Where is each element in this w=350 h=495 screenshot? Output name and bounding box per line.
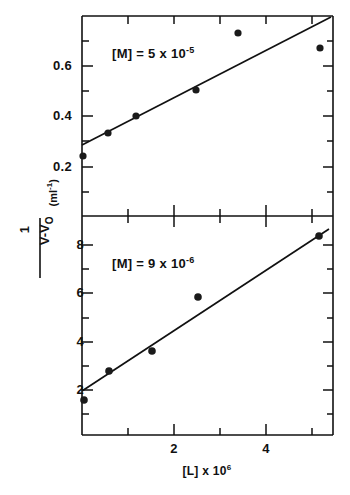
bottom-panel-annotation-exponent: -6 xyxy=(186,255,195,265)
data-point xyxy=(105,367,113,375)
top-panel-ytick-label-0: 0.6 xyxy=(32,58,72,73)
y-axis-caption-unit-exponent: -1 xyxy=(45,183,54,190)
data-point xyxy=(79,152,86,159)
y-axis-caption-unit-open: (ml xyxy=(47,190,59,207)
bottom-panel-annotation-text: [M] = 9 x 10 xyxy=(112,256,186,271)
data-point xyxy=(80,396,88,404)
bottom-panel-x-ticks-top xyxy=(128,216,312,227)
bottom-panel-frame xyxy=(82,216,333,435)
top-panel-annotation-text: [M] = 5 x 10 xyxy=(112,46,186,61)
bottom-panel-xtick-label-1: 4 xyxy=(254,441,278,456)
top-panel-y-ticks xyxy=(82,41,93,192)
x-axis-caption: [L] x 106 xyxy=(147,463,267,478)
top-panel-x-ticks-top xyxy=(128,16,312,24)
x-axis-caption-exponent: 6 xyxy=(227,463,232,472)
data-point xyxy=(234,29,241,36)
data-point xyxy=(148,347,156,355)
top-panel-ytick-label-1: 0.4 xyxy=(32,108,72,123)
figure-root: 0.6 0.4 0.2 [M] = 5 x 10-5 8 6 4 2 [M] =… xyxy=(0,0,350,495)
top-panel-fit-line xyxy=(82,17,331,145)
bottom-panel-x-ticks-bottom xyxy=(128,424,312,435)
data-point xyxy=(192,86,199,93)
data-point xyxy=(316,44,323,51)
x-axis-caption-text: [L] x 10 xyxy=(182,464,226,478)
data-point xyxy=(194,293,202,301)
y-axis-caption-numerator: 1 xyxy=(17,210,32,250)
top-panel-y-ticks-right xyxy=(323,41,333,192)
bottom-panel-fit-line xyxy=(82,229,329,391)
y-axis-caption-unit: (ml-1) xyxy=(45,165,59,221)
top-panel-annotation: [M] = 5 x 10-5 xyxy=(112,45,195,61)
y-axis-caption-unit-close: ) xyxy=(47,179,59,183)
data-point xyxy=(315,232,323,240)
bottom-panel-ytick-label-2: 4 xyxy=(44,334,84,349)
bottom-panel-annotation: [M] = 9 x 10-6 xyxy=(112,255,195,271)
y-axis-caption: 1 V-VO (ml-1) xyxy=(6,178,70,298)
bottom-panel-y-ticks-right xyxy=(323,245,333,414)
bottom-panel-xtick-label-0: 2 xyxy=(162,441,186,456)
top-panel-annotation-exponent: -5 xyxy=(186,45,195,55)
data-point xyxy=(104,129,111,136)
bottom-panel-ytick-label-3: 2 xyxy=(44,382,84,397)
data-point xyxy=(132,112,139,119)
top-panel-x-ticks-bottom xyxy=(128,205,312,216)
y-axis-caption-denominator-text: V-V xyxy=(37,224,52,245)
